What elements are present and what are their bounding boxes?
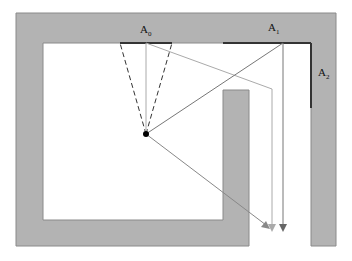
cone-ray-right (146, 43, 172, 134)
reflection-diagram: A0 A1 A2 (0, 0, 352, 261)
ray-dark (146, 43, 283, 226)
cone-ray-left (120, 43, 146, 134)
ray-light (146, 43, 272, 226)
walls (16, 13, 336, 246)
source-point (143, 131, 149, 137)
arrowhead-dark (279, 224, 287, 232)
outer-wall (16, 13, 336, 246)
